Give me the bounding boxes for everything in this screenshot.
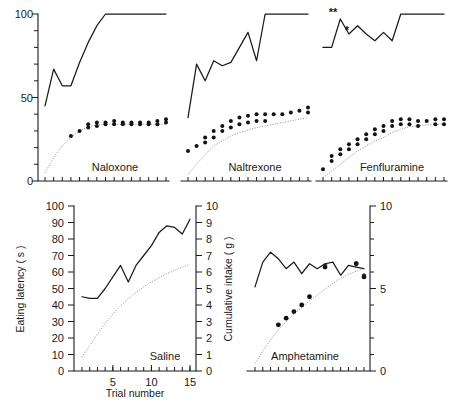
data-point — [442, 122, 446, 126]
multi-panel-figure: 100 50 0 Naloxone Naltrexone — [0, 0, 454, 417]
data-point — [95, 124, 99, 128]
saline-ytick-label: 90 — [52, 217, 64, 229]
fenfluramine-latency-line — [323, 14, 444, 47]
data-point — [373, 127, 377, 131]
data-point — [104, 122, 108, 126]
data-point — [347, 142, 351, 146]
data-point — [433, 122, 437, 126]
data-point — [237, 116, 241, 120]
saline-yrtick-label: 2 — [206, 332, 212, 344]
significance-single-asterisk-fenfluramine: * — [345, 24, 350, 36]
data-point — [373, 132, 377, 136]
data-point — [112, 122, 116, 126]
data-point — [280, 112, 284, 116]
data-point — [407, 117, 411, 121]
y-axis-title-cumulative-intake: Cumulative intake ( g ) — [222, 236, 234, 341]
saline-yrtick-label: 4 — [206, 299, 212, 311]
saline-x-ticks — [82, 365, 190, 371]
saline-intake-dotted — [82, 265, 190, 357]
naloxone-x-ticks — [45, 177, 166, 181]
data-point — [356, 142, 360, 146]
x-axis-title-trial-number: Trial number — [106, 387, 165, 399]
panel-label-amphetamine: Amphetamine — [271, 350, 339, 362]
data-point — [203, 136, 207, 140]
saline-yrtick-label: 1 — [206, 349, 212, 361]
data-point — [78, 129, 82, 133]
data-point — [237, 122, 241, 126]
saline-yrtick-label: 8 — [206, 233, 212, 245]
data-point — [399, 122, 403, 126]
data-point — [138, 122, 142, 126]
data-point — [321, 167, 325, 171]
naltrexone-latency-line — [188, 14, 308, 118]
naltrexone-axes — [181, 177, 311, 181]
data-point — [347, 147, 351, 151]
saline-ytick-label: 30 — [52, 316, 64, 328]
data-point — [442, 117, 446, 121]
data-point — [433, 117, 437, 121]
data-point — [212, 129, 216, 133]
naloxone-ytick-100: 100 — [15, 8, 33, 20]
data-point — [356, 137, 360, 141]
amphetamine-y-right-ticks — [370, 206, 376, 371]
saline-ytick-label: 10 — [52, 349, 64, 361]
saline-ytick-label: 70 — [52, 250, 64, 262]
naloxone-ytick-0: 0 — [27, 175, 33, 187]
data-point — [229, 126, 233, 130]
amphetamine-axes — [247, 206, 376, 371]
panel-label-fenfluramine: Fenfluramine — [360, 161, 424, 173]
data-point — [338, 152, 342, 156]
naloxone-latency-line — [45, 14, 166, 106]
saline-yrtick-label: 10 — [206, 200, 218, 212]
data-point — [307, 294, 312, 299]
data-point — [229, 119, 233, 123]
significance-double-asterisk-fenfluramine: ** — [329, 6, 338, 18]
naltrexone-intake-points — [186, 106, 310, 153]
panel-amphetamine: 0510 *** Cumulative intake ( g ) Ampheta… — [222, 200, 392, 377]
data-point — [364, 132, 368, 136]
data-point — [306, 106, 310, 110]
panel-label-naloxone: Naloxone — [92, 161, 138, 173]
data-point — [399, 117, 403, 121]
data-point — [246, 114, 250, 118]
y-axis-title-eating-latency: Eating latency ( s ) — [14, 246, 26, 333]
data-point — [155, 122, 159, 126]
data-point — [390, 124, 394, 128]
data-point — [263, 112, 267, 116]
saline-y-right-labels: 012345678910 — [206, 200, 218, 377]
significance-single-asterisk-amphetamine: * — [323, 261, 328, 273]
saline-y-left-labels: 0102030405060708090100 — [46, 200, 64, 377]
data-point — [330, 154, 334, 158]
data-point — [306, 111, 310, 115]
saline-y-right-ticks — [196, 206, 202, 371]
data-point — [284, 316, 289, 321]
data-point — [276, 322, 281, 327]
amphetamine-yrtick-label: 10 — [380, 200, 392, 212]
data-point — [212, 136, 216, 140]
panel-label-saline: Saline — [150, 350, 181, 362]
saline-y-left-ticks — [68, 206, 74, 371]
data-point — [299, 303, 304, 308]
data-point — [164, 121, 168, 125]
data-point — [186, 149, 190, 153]
fenfluramine-axes — [316, 177, 447, 181]
data-point — [330, 159, 334, 163]
saline-xtick-label: 15 — [184, 376, 196, 388]
data-point — [416, 124, 420, 128]
data-point — [338, 147, 342, 151]
data-point — [382, 129, 386, 133]
data-point — [220, 129, 224, 133]
saline-ytick-label: 80 — [52, 233, 64, 245]
data-point — [263, 119, 267, 123]
naltrexone-x-ticks — [188, 177, 308, 181]
saline-latency-line — [82, 219, 190, 298]
panel-label-naltrexone: Naltrexone — [228, 161, 281, 173]
significance-single-asterisk-amphetamine: * — [362, 271, 367, 283]
data-point — [255, 112, 259, 116]
panel-naltrexone: Naltrexone — [181, 14, 311, 181]
saline-ytick-label: 40 — [52, 299, 64, 311]
data-point — [203, 141, 207, 145]
data-point — [382, 124, 386, 128]
saline-ytick-label: 50 — [52, 283, 64, 295]
data-point — [297, 109, 301, 113]
